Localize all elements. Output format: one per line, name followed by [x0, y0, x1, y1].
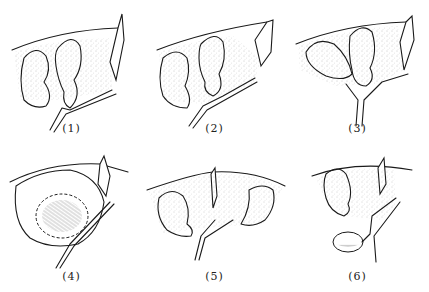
panel-1: (1)	[0, 0, 143, 146]
panel-label-4: (4)	[0, 270, 143, 283]
panel-label-2: (2)	[143, 122, 286, 135]
panel-label-1: (1)	[0, 122, 143, 135]
panel-3: (3)	[286, 0, 429, 146]
panel-label-5: (5)	[143, 270, 286, 283]
panel-6: (6)	[286, 146, 429, 292]
panel-label-6: (6)	[286, 270, 429, 283]
panel-4: (4)	[0, 146, 143, 292]
panel-label-3: (3)	[286, 122, 429, 135]
panel-5: (5)	[143, 146, 286, 292]
panel-2: (2)	[143, 0, 286, 146]
